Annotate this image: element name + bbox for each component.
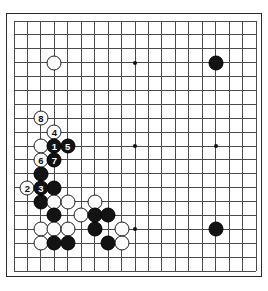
move-number-label: 6 — [34, 153, 47, 166]
white-stone[interactable] — [60, 194, 75, 209]
grid-line-horizontal — [14, 118, 256, 119]
black-stone[interactable] — [87, 222, 102, 237]
grid-line-horizontal — [14, 271, 256, 272]
move-stone-3[interactable]: 3 — [33, 180, 48, 195]
hoshi-point — [133, 227, 137, 231]
grid-line-horizontal — [14, 104, 256, 105]
move-number-label: 5 — [61, 140, 74, 153]
grid-line-horizontal — [14, 21, 256, 22]
grid-line-horizontal — [14, 173, 256, 174]
white-stone[interactable] — [114, 222, 129, 237]
move-number-label: 1 — [48, 140, 61, 153]
grid-line-horizontal — [14, 48, 256, 49]
go-board[interactable]: 84156723 — [6, 13, 262, 277]
white-stone[interactable] — [47, 55, 62, 70]
move-number-label: 8 — [34, 112, 47, 125]
white-stone[interactable] — [87, 194, 102, 209]
move-stone-7[interactable]: 7 — [47, 152, 62, 167]
move-number-label: 7 — [48, 153, 61, 166]
black-stone[interactable] — [60, 236, 75, 251]
grid-line-horizontal — [14, 257, 256, 258]
hoshi-point — [214, 144, 218, 148]
move-stone-4[interactable]: 4 — [47, 125, 62, 140]
hoshi-point — [133, 144, 137, 148]
black-stone[interactable] — [101, 208, 116, 223]
white-stone[interactable] — [60, 222, 75, 237]
move-number-label: 3 — [34, 181, 47, 194]
black-stone[interactable] — [208, 55, 223, 70]
grid-line-horizontal — [14, 34, 256, 35]
move-number-label: 4 — [48, 126, 61, 139]
move-stone-8[interactable]: 8 — [33, 111, 48, 126]
black-stone[interactable] — [33, 166, 48, 181]
go-diagram-container: 84156723 — [0, 0, 268, 291]
black-stone[interactable] — [208, 222, 223, 237]
hoshi-point — [133, 61, 137, 65]
grid-line-horizontal — [14, 90, 256, 91]
black-stone[interactable] — [47, 208, 62, 223]
black-stone[interactable] — [47, 180, 62, 195]
move-number-label: 2 — [21, 181, 34, 194]
grid-line-horizontal — [14, 76, 256, 77]
white-stone[interactable] — [114, 236, 129, 251]
move-stone-5[interactable]: 5 — [60, 139, 75, 154]
